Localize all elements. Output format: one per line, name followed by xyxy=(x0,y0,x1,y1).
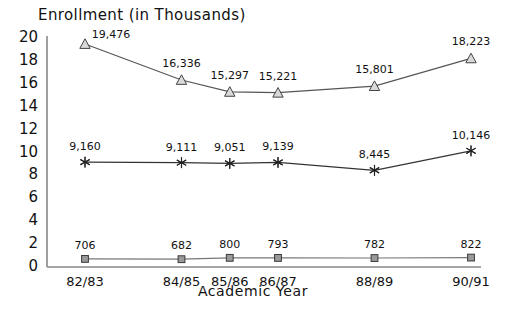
y-axis-tick-label: 20 xyxy=(8,28,38,46)
y-axis-tick-label: 10 xyxy=(8,143,38,161)
data-point-value-label: 10,146 xyxy=(431,129,506,142)
y-axis-tick-label: 8 xyxy=(8,165,38,183)
y-axis-tick-label: 12 xyxy=(8,120,38,138)
data-point-marker-square xyxy=(178,256,185,263)
y-axis-tick-label: 6 xyxy=(8,188,38,206)
data-point-marker-square xyxy=(226,254,233,261)
data-point-value-label: 19,476 xyxy=(71,28,151,41)
y-axis-tick-label: 14 xyxy=(8,97,38,115)
data-point-value-label: 9,160 xyxy=(45,140,125,153)
data-point-value-label: 8,445 xyxy=(335,148,415,161)
data-point-marker-triangle xyxy=(176,75,186,85)
data-point-value-label: 18,223 xyxy=(431,35,506,48)
data-point-value-label: 793 xyxy=(238,238,318,251)
data-point-marker-square xyxy=(468,254,475,261)
data-point-value-label: 15,221 xyxy=(238,70,318,83)
data-point-value-label: 15,801 xyxy=(335,63,415,76)
data-point-marker-triangle xyxy=(369,81,379,91)
y-axis-tick-label: 2 xyxy=(8,234,38,252)
data-point-value-label: 9,139 xyxy=(238,140,318,153)
data-point-value-label: 706 xyxy=(45,239,125,252)
data-point-marker-triangle xyxy=(466,53,476,63)
data-point-marker-square xyxy=(275,255,282,262)
chart-container: Enrollment (in Thousands) 20181614121086… xyxy=(0,0,506,312)
data-point-marker-asterisk xyxy=(466,145,475,156)
data-point-marker-square xyxy=(82,256,89,263)
y-axis-tick-label: 4 xyxy=(8,211,38,229)
y-axis-tick-label: 0 xyxy=(8,257,38,275)
x-axis-title: Academic Year xyxy=(0,283,506,299)
y-axis-tick-label: 18 xyxy=(8,51,38,69)
data-point-value-label: 782 xyxy=(335,238,415,251)
y-axis-tick-label: 16 xyxy=(8,74,38,92)
data-point-value-label: 822 xyxy=(431,238,506,251)
data-point-marker-square xyxy=(371,255,378,262)
